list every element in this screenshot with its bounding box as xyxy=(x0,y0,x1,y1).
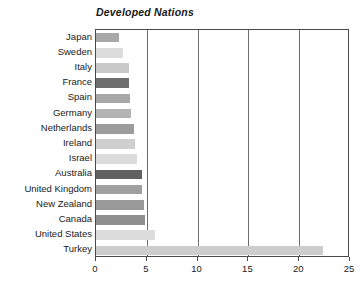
category-label: Canada xyxy=(0,214,92,224)
bar-row xyxy=(96,124,348,134)
axis-tick-label: 25 xyxy=(344,263,355,274)
bar xyxy=(96,200,144,210)
bar-row xyxy=(96,215,348,225)
category-label: Sweden xyxy=(0,47,92,57)
category-label: Spain xyxy=(0,92,92,102)
axis-tick-label: 10 xyxy=(191,263,202,274)
bar-row xyxy=(96,139,348,149)
bar-row xyxy=(96,246,348,256)
category-label: United Kingdom xyxy=(0,184,92,194)
bar xyxy=(96,185,142,195)
category-label: Israel xyxy=(0,153,92,163)
category-label: Australia xyxy=(0,168,92,178)
category-label: Italy xyxy=(0,62,92,72)
bar xyxy=(96,63,129,73)
axis-tick xyxy=(197,257,198,261)
chart-title: Developed Nations xyxy=(96,6,194,18)
bar-row xyxy=(96,33,348,43)
bar xyxy=(96,94,130,104)
category-label: Japan xyxy=(0,32,92,42)
axis-tick-label: 5 xyxy=(143,263,148,274)
bar-row xyxy=(96,78,348,88)
bar xyxy=(96,230,155,240)
bar-row xyxy=(96,200,348,210)
category-axis-labels: JapanSwedenItalyFranceSpainGermanyNether… xyxy=(0,29,92,257)
category-label: Netherlands xyxy=(0,123,92,133)
plot-area xyxy=(95,29,349,257)
axis-tick xyxy=(298,257,299,261)
bar-row xyxy=(96,154,348,164)
value-axis: 0510152025 xyxy=(0,257,364,285)
bar xyxy=(96,33,119,43)
axis-tick xyxy=(247,257,248,261)
category-label: United States xyxy=(0,229,92,239)
bar xyxy=(96,124,134,134)
category-label: Ireland xyxy=(0,138,92,148)
bar-row xyxy=(96,48,348,58)
bar xyxy=(96,78,129,88)
bars-layer xyxy=(96,30,348,256)
axis-tick xyxy=(95,257,96,261)
bar-row xyxy=(96,170,348,180)
category-label: Germany xyxy=(0,108,92,118)
bar-row xyxy=(96,63,348,73)
bar xyxy=(96,170,142,180)
category-label: Turkey xyxy=(0,244,92,254)
bar-row xyxy=(96,230,348,240)
axis-tick-label: 20 xyxy=(293,263,304,274)
axis-tick-label: 15 xyxy=(242,263,253,274)
bar xyxy=(96,215,145,225)
bar xyxy=(96,48,123,58)
bar xyxy=(96,246,323,256)
axis-tick-label: 0 xyxy=(92,263,97,274)
category-label: New Zealand xyxy=(0,199,92,209)
axis-tick xyxy=(349,257,350,261)
bar xyxy=(96,109,131,119)
bar xyxy=(96,154,137,164)
bar xyxy=(96,139,135,149)
bar-row xyxy=(96,109,348,119)
axis-tick xyxy=(146,257,147,261)
bar-chart: Developed Nations JapanSwedenItalyFrance… xyxy=(0,0,364,300)
bar-row xyxy=(96,185,348,195)
category-label: France xyxy=(0,77,92,87)
bar-row xyxy=(96,94,348,104)
